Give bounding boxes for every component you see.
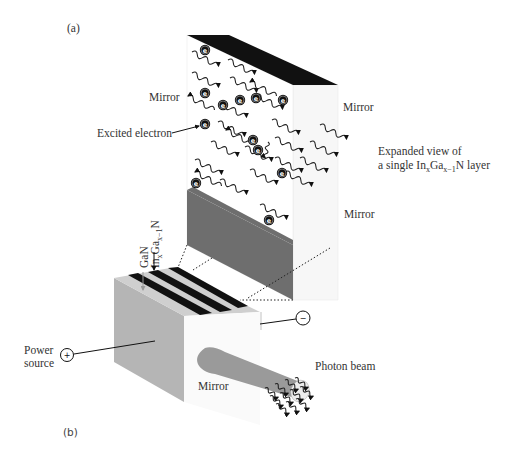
mirror-label-left: Mirror bbox=[149, 91, 180, 103]
expanded-view-caption: Expanded view of a single InxGax−1N laye… bbox=[378, 145, 490, 174]
mirror-label-right-top: Mirror bbox=[343, 101, 374, 113]
negative-terminal-group: − bbox=[260, 311, 310, 325]
ingan-label-group: InxGax−1N bbox=[149, 219, 164, 270]
mirror-label-device: Mirror bbox=[198, 380, 229, 392]
svg-text:+: + bbox=[64, 351, 71, 360]
svg-text:Expanded view of: Expanded view of bbox=[378, 145, 462, 158]
panel-label-b: (b) bbox=[63, 426, 78, 438]
ingan-label: InxGax−1N bbox=[149, 219, 164, 268]
svg-text:Power: Power bbox=[24, 344, 54, 356]
led-laser-diagram: e (a) (b) bbox=[0, 0, 507, 454]
svg-text:source: source bbox=[24, 357, 54, 369]
expanded-layer-block bbox=[187, 35, 338, 300]
laser-device bbox=[114, 267, 262, 425]
panel-label-a: (a) bbox=[67, 22, 80, 35]
mirror-label-right-bottom: Mirror bbox=[344, 208, 375, 220]
excited-electron-label: Excited electron bbox=[97, 127, 172, 139]
svg-text:−: − bbox=[300, 314, 307, 323]
svg-text:a single InxGax−1N layer: a single InxGax−1N layer bbox=[378, 159, 490, 174]
photon-beam-label: Photon beam bbox=[315, 360, 375, 372]
